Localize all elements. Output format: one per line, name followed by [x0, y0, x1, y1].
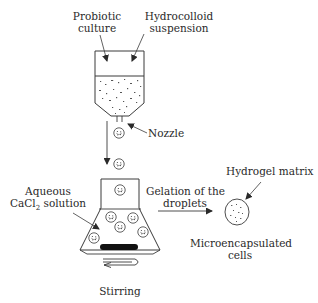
- feed-container: [95, 51, 144, 122]
- droplet-in-neck: [115, 185, 125, 195]
- aqueous-cacl2-label: Aqueous CaCl2 solution: [8, 185, 88, 209]
- gel-bead: [138, 227, 148, 237]
- falling-droplet: [114, 159, 124, 169]
- stir-bar: [100, 244, 138, 250]
- falling-droplet: [114, 128, 124, 138]
- gelation-label: Gelation of the droplets: [146, 185, 224, 209]
- hydrocolloid-suspension-label: Hydrocolloid suspension: [136, 10, 222, 34]
- hydrogel-matrix-label: Hydrogel matrix: [226, 165, 308, 177]
- gel-bead: [106, 212, 116, 222]
- gel-bead: [89, 233, 99, 243]
- microcapsule: [225, 199, 249, 225]
- diagram-canvas: Probiotic culture Hydrocolloid suspensio…: [0, 0, 318, 303]
- gel-bead: [128, 213, 138, 223]
- stirring-label: Stirring: [92, 285, 148, 297]
- gel-bead: [115, 222, 125, 232]
- nozzle-label: Nozzle: [148, 127, 192, 139]
- nozzle-pointer-arrow: [128, 124, 147, 133]
- microencapsulated-cells-label: Microencapsulated cells: [190, 237, 290, 261]
- hydrogel-pointer-arrow: [246, 182, 261, 199]
- stirring-rotation-icon: [103, 259, 138, 268]
- probiotic-culture-label: Probiotic culture: [62, 10, 132, 34]
